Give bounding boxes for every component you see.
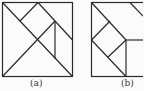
figure-b-label: (b) — [121, 79, 134, 88]
figure-a-top-left-edge — [20, 3, 38, 22]
figure-b-top-right-edge — [130, 3, 143, 17]
figure-b-diagonal-4 — [108, 40, 126, 57]
figure-a-label: (a) — [30, 79, 42, 88]
figure-a-anti-diagonal — [3, 21, 56, 77]
figure-b — [92, 3, 144, 77]
figure-b-diagonal-2 — [92, 21, 111, 40]
figure-a — [3, 3, 73, 77]
